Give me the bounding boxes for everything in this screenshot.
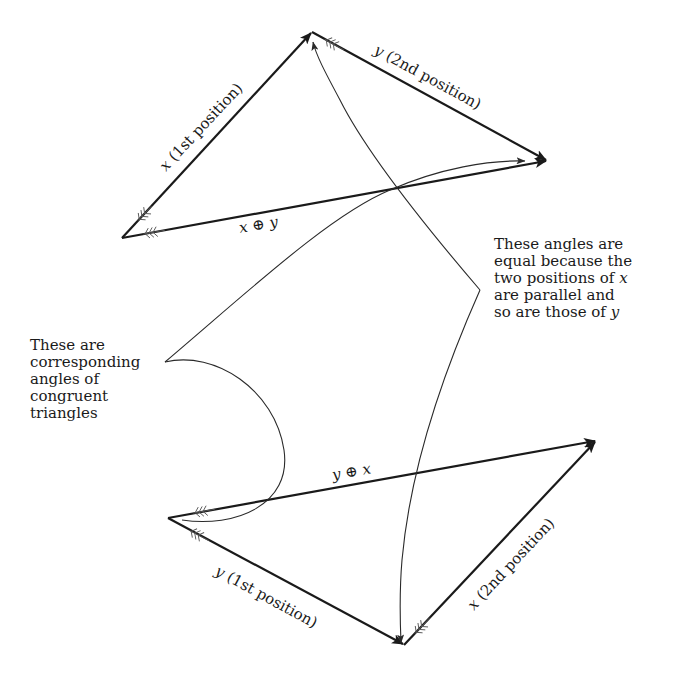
note-angles-equal: These angles are equal because the two p… bbox=[494, 236, 632, 321]
feather-icon bbox=[192, 504, 215, 518]
label-x-first-position: x (1st position) bbox=[156, 79, 247, 174]
vector-y-plus-x bbox=[168, 441, 595, 518]
top-triangle: x (1st position) y (2nd position) x ⊕ y bbox=[122, 32, 546, 239]
label-y-plus-x: y ⊕ x bbox=[330, 459, 373, 484]
bottom-triangle: y ⊕ x y (1st position) x (2nd position) bbox=[168, 441, 595, 645]
note-corresponding-angles: These are corresponding angles of congru… bbox=[30, 337, 140, 422]
feather-icon bbox=[322, 35, 346, 54]
label-y-first-position: y (1st position) bbox=[211, 561, 320, 632]
vector-x-plus-y bbox=[122, 161, 546, 238]
callout-arc-left-to-bottom-angle bbox=[165, 360, 285, 522]
callout-arc-left-to-top-angle bbox=[165, 161, 525, 362]
feather-icon bbox=[142, 225, 165, 239]
vector-x-second-position bbox=[404, 442, 595, 645]
feather-icon bbox=[187, 526, 211, 545]
label-y-second-position: y (2nd position) bbox=[370, 40, 484, 113]
vector-addition-commutativity-diagram: x (1st position) y (2nd position) x ⊕ y bbox=[0, 0, 682, 673]
vector-y-first-position bbox=[168, 518, 403, 644]
vector-y-second-position bbox=[312, 32, 546, 160]
label-x-second-position: x (2nd position) bbox=[464, 514, 558, 613]
callout-arc-right-to-bottom-angle bbox=[400, 290, 480, 643]
